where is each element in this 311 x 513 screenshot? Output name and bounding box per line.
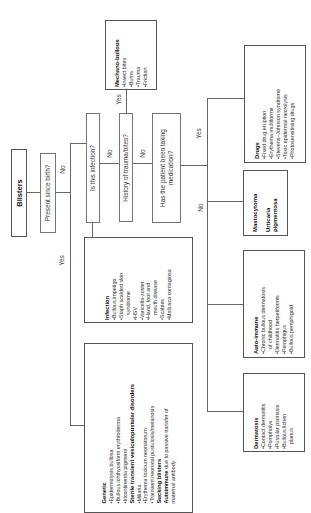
outcome-title: Mechano-bullous xyxy=(114,23,121,87)
list-item-cont: planus xyxy=(288,377,295,449)
outcome-title: Drugs xyxy=(254,49,261,159)
edge-label-q3-yes: Yes xyxy=(115,94,122,105)
edge-q1-trunk xyxy=(56,192,70,193)
list-item: Miliaria xyxy=(135,349,142,504)
outcome-mechano-bullous: Mechano-bullous Insect bites Burns Traum… xyxy=(105,20,157,90)
edge-label-q4-no: No xyxy=(197,203,204,211)
outcome-title: Auto-immune xyxy=(253,254,260,354)
outcome-title-3: pigmentosa xyxy=(272,174,280,232)
edge-label-q1-no: No xyxy=(59,165,66,173)
list-item: Pustular psoriasis xyxy=(274,377,281,449)
list-item: Epidermolysis bullosa xyxy=(107,349,114,504)
edge-q3-no xyxy=(133,163,152,164)
outcome-list: Mastocytoma Urticaria pigmentosa xyxy=(252,174,280,232)
trunk-line-q4 xyxy=(207,98,208,412)
edge-q3-yes xyxy=(126,89,127,113)
sucking-title: Sucking blisters xyxy=(156,349,163,504)
outcome-drugs: Drugs Fixed drug eruption Erythema multi… xyxy=(244,45,306,163)
list-item: Dermatitis herpetiformis xyxy=(274,254,281,354)
list-item: Trauma xyxy=(134,23,141,87)
question-history-trauma: History of trauma/bites? xyxy=(119,113,133,222)
outcome-genetic: Genetic Epidermolysis bullosa Bullous ic… xyxy=(84,343,193,513)
question-text: Is this infection? xyxy=(89,145,97,191)
question-present-since-birth: Present since birth? xyxy=(40,153,56,233)
outcome-auto-immune: Auto-immune Chronic bullous dermatosis o… xyxy=(243,250,305,358)
outcome-title: Infection xyxy=(104,240,111,320)
list-item: Hand, foot and xyxy=(145,240,152,320)
list-item: Incontinentia pigmenti xyxy=(121,349,128,504)
list-item: Fixed drug eruption xyxy=(261,49,268,159)
list-item-cont: syndrome xyxy=(125,240,132,320)
list-item: Bullous lichen xyxy=(281,377,288,449)
list-item: HSV xyxy=(132,240,139,320)
edge-q4-no-mastocytoma xyxy=(207,201,243,202)
outcome-list: Genetic Epidermolysis bullosa Bullous ic… xyxy=(101,349,177,504)
list-item: Toxic epidermal necrolysis xyxy=(282,49,289,159)
outcome-title: Mastocytoma xyxy=(252,174,260,232)
edge-label-q4-yes: Yes xyxy=(195,128,202,139)
outcome-list: Mechano-bullous Insect bites Burns Traum… xyxy=(114,23,149,87)
edge-q2-yes xyxy=(92,222,93,237)
outcome-title-2: Urticaria xyxy=(264,174,272,232)
edge-q1-yes-genetic xyxy=(70,425,84,426)
list-item: Photosensitising drugs xyxy=(289,49,296,159)
list-item: Staph scalded skin xyxy=(118,240,125,320)
list-item-cont: of childhood xyxy=(267,254,274,354)
outcome-list: Dermatosis Contact dermatitis Pompholyx … xyxy=(253,377,294,449)
outcome-infection: Infection Bullous impetigo Staph scalded… xyxy=(84,237,193,323)
list-item: Friction xyxy=(141,23,148,87)
list-item: Transient neonatal pustulosis/melanosis xyxy=(149,349,156,504)
sterile-title: Sterile transient vesiculopustular disor… xyxy=(128,349,135,504)
list-item: Insect bites xyxy=(121,23,128,87)
list-item: Scabies xyxy=(159,240,166,320)
autoimmune-line2: maternal antibody xyxy=(170,349,177,504)
root-node-blisters: Blisters xyxy=(11,149,27,237)
outcome-list: Auto-immune Chronic bullous dermatosis o… xyxy=(253,254,294,354)
edge-label-q1-yes: Yes xyxy=(58,255,65,266)
list-item: Contact dermatitis xyxy=(260,377,267,449)
list-item: Varicella-zoster xyxy=(139,240,146,320)
question-text: History of trauma/bites? xyxy=(122,134,130,201)
autoimmune-line: Autoimmune due to passive transfer of xyxy=(163,349,170,504)
question-text-line2: medication? xyxy=(167,129,175,207)
question-text: Present since birth? xyxy=(44,165,52,221)
edge-q4-trunk xyxy=(181,165,207,166)
edge-label-q2-no: No xyxy=(106,149,113,157)
question-text: Has the patient been taking medication? xyxy=(159,129,175,207)
edge-q2-no xyxy=(100,163,119,164)
question-taking-medication: Has the patient been taking medication? xyxy=(152,113,181,223)
list-item-cont: mouth disease xyxy=(152,240,159,320)
list-item: Bullous pemphigoid xyxy=(288,254,295,354)
list-item: Mollusca contagiosa xyxy=(166,240,173,320)
outcome-mastocytoma: Mastocytoma Urticaria pigmentosa xyxy=(243,170,288,236)
list-item: Chronic bullous dermatosis xyxy=(260,254,267,354)
edge-label-q3-no: No xyxy=(139,149,146,157)
outcome-list: Drugs Fixed drug eruption Erythema multi… xyxy=(254,49,295,159)
outcome-dermatosis: Dermatosis Contact dermatitis Pompholyx … xyxy=(243,373,305,452)
list-item: Stevens–Johnson syndrome xyxy=(275,49,282,159)
outcome-list: Infection Bullous impetigo Staph scalded… xyxy=(104,240,173,320)
root-label: Blisters xyxy=(15,179,24,207)
list-item: Bullous ichthyosiform erythroderma xyxy=(114,349,121,504)
list-item: Erythema multiforme xyxy=(268,49,275,159)
autoimmune-rest: due to passive transfer of xyxy=(163,409,169,471)
question-is-infection: Is this infection? xyxy=(86,113,100,223)
edge-q4-no-dermatosis xyxy=(207,411,243,412)
list-item: Erythema toxicum neonatorum xyxy=(142,349,149,504)
edge-q4-no-autoimmune xyxy=(207,304,243,305)
outcome-title: Genetic xyxy=(101,349,108,504)
list-item: Burns xyxy=(128,23,135,87)
list-item: Pompholyx xyxy=(267,377,274,449)
list-item: Pemphigus xyxy=(281,254,288,354)
trunk-line-q1 xyxy=(70,143,71,426)
outcome-title: Dermatosis xyxy=(253,377,260,449)
list-item: Bullous impetigo xyxy=(111,240,118,320)
edge-q1-no xyxy=(70,143,86,144)
autoimmune-bold: Autoimmune xyxy=(163,471,169,504)
edge-root-q1 xyxy=(26,192,40,193)
question-text-line1: Has the patient been taking xyxy=(159,129,167,207)
edge-q4-yes-drugs xyxy=(207,98,244,99)
